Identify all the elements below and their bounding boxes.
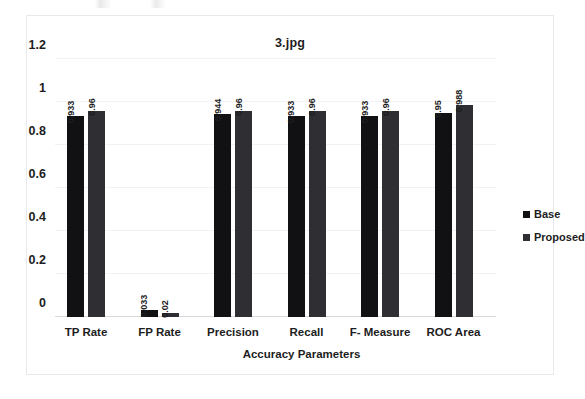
x-axis-title: Accuracy Parameters [81, 348, 522, 360]
gridline [55, 187, 496, 188]
bar-base[interactable]: 0.933 [361, 116, 378, 317]
chart-title: 3.jpg [27, 36, 553, 50]
y-axis-tick-label: 0.4 [29, 210, 46, 224]
bar-proposed[interactable]: 0.96 [88, 111, 105, 317]
bar-value-label: 0.944 [214, 99, 223, 122]
gridline [55, 58, 496, 59]
y-axis-tick-label: 0.8 [29, 124, 46, 138]
y-axis-tick-label: 1 [39, 81, 46, 95]
scan-artifact [0, 0, 580, 8]
bar-proposed[interactable]: 0.988 [456, 105, 473, 317]
legend-label: Base [534, 208, 560, 220]
bar-value-label: 0.933 [67, 101, 76, 124]
x-axis-category-label: TP Rate [65, 326, 108, 338]
bar-value-label: 0.933 [287, 101, 296, 124]
y-axis-tick-label: 1.2 [29, 38, 46, 52]
y-axis-tick-label: 0 [39, 296, 46, 310]
y-axis-tick-label: 0.6 [29, 167, 46, 181]
chart-legend: BaseProposed [523, 208, 585, 254]
x-axis-category-label: FP Rate [138, 326, 181, 338]
bar-base[interactable]: 0.033 [141, 310, 158, 317]
legend-swatch-icon [523, 211, 530, 218]
bar-base[interactable]: 0.944 [214, 114, 231, 317]
bar-value-label: 0.933 [361, 101, 370, 124]
bar-proposed[interactable]: 0.96 [235, 111, 252, 317]
bar-group: 0.9440.96Precision [214, 59, 252, 317]
bar-value-label: 0.95 [434, 100, 443, 118]
bar-base[interactable]: 0.933 [67, 116, 84, 317]
bar-value-label: 0.96 [382, 98, 391, 116]
bar-base[interactable]: 0.95 [435, 113, 452, 317]
bar-base[interactable]: 0.933 [288, 116, 305, 317]
x-axis-category-label: F- Measure [350, 326, 411, 338]
bar-value-label: 0.96 [88, 98, 97, 116]
x-axis-category-label: Recall [290, 326, 324, 338]
gridline [55, 316, 496, 317]
bar-group: 0.9330.96TP Rate [67, 59, 105, 317]
legend-swatch-icon [523, 234, 530, 241]
bar-value-label: 0.02 [161, 300, 170, 318]
bar-value-label: 0.96 [235, 98, 244, 116]
bar-group: 0.0330.02FP Rate [141, 59, 179, 317]
x-axis-category-label: ROC Area [427, 326, 481, 338]
bar-value-label: 0.033 [140, 295, 149, 318]
bar-proposed[interactable]: 0.96 [382, 111, 399, 317]
bar-group: 0.9330.96Recall [288, 59, 326, 317]
plot-area: 00.20.40.60.811.2 0.9330.96TP Rate0.0330… [55, 59, 496, 317]
chart-frame: 3.jpg 00.20.40.60.811.2 0.9330.96TP Rate… [26, 15, 554, 375]
bar-proposed[interactable]: 0.96 [309, 111, 326, 317]
gridline [55, 273, 496, 274]
gridline [55, 101, 496, 102]
x-axis-category-label: Precision [207, 326, 259, 338]
legend-label: Proposed [534, 231, 585, 243]
legend-item[interactable]: Base [523, 208, 585, 220]
bar-value-label: 0.96 [308, 98, 317, 116]
gridline [55, 144, 496, 145]
y-axis-tick-label: 0.2 [29, 253, 46, 267]
bar-group: 0.9330.96F- Measure [361, 59, 399, 317]
bar-value-label: 0.988 [455, 89, 464, 112]
legend-item[interactable]: Proposed [523, 231, 585, 243]
bar-proposed[interactable]: 0.02 [162, 313, 179, 317]
bar-group: 0.950.988ROC Area [435, 59, 473, 317]
gridline [55, 230, 496, 231]
